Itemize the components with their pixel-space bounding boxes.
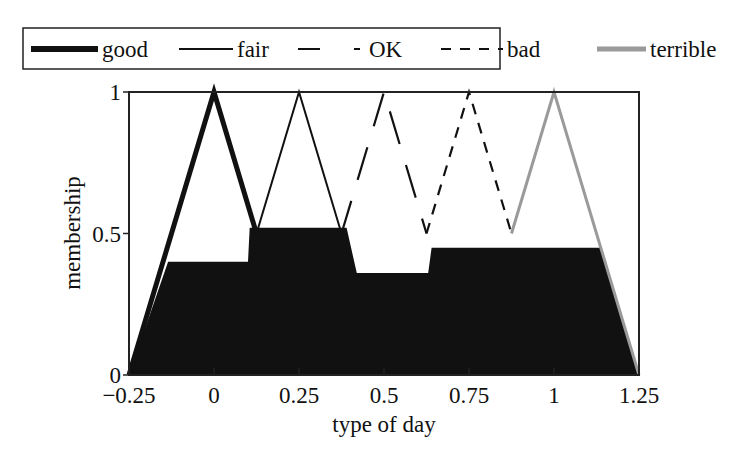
legend-items: goodfairOKbadterrible [31,37,716,62]
legend-label: OK [369,37,403,62]
x-tick-label: 1 [548,383,560,408]
legend-label: fair [237,37,269,62]
curve-bad [427,92,512,234]
chart: goodfairOKbadterrible −0.2500.250.50.751… [0,0,755,460]
legend-label: bad [507,37,541,62]
x-tick-label: 0 [208,383,220,408]
legend-label: good [102,37,149,62]
x-tick-label: 1.25 [619,383,659,408]
x-tick-label: 0.5 [370,383,399,408]
x-tick-label: 0.75 [449,383,489,408]
curve-ok [342,92,427,234]
y-tick-label: 0.5 [92,222,121,247]
x-axis-label: type of day [332,412,436,437]
y-axis-ticks: 00.51 [92,80,129,388]
x-tick-label: 0.25 [279,383,319,408]
legend-label: terrible [650,37,716,62]
legend-item-terrible: terrible [597,37,716,62]
y-axis-label: membership [60,176,85,290]
y-tick-label: 1 [110,80,122,105]
aggregated-output-area [129,228,639,375]
y-tick-label: 0 [110,363,122,388]
curve-fair [257,92,342,234]
